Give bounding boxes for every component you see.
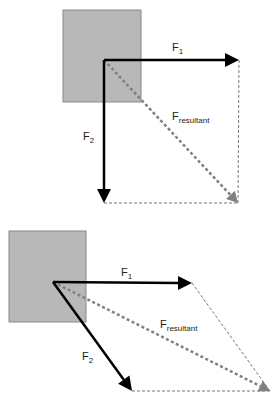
object-box bbox=[63, 10, 141, 102]
resultant-label: Fresultant bbox=[172, 110, 210, 125]
f2-force-arrow bbox=[53, 282, 124, 380]
angled-forces-diagram: F1F2Fresultant bbox=[9, 231, 270, 391]
f2-arrowhead-icon bbox=[118, 376, 132, 391]
f1-arrowhead-icon bbox=[225, 53, 239, 67]
f1-label: F1 bbox=[121, 266, 133, 281]
f1-force-arrow bbox=[53, 282, 178, 283]
resultant-label: Fresultant bbox=[160, 318, 198, 333]
parallelogram-side-line bbox=[238, 60, 239, 203]
force-diagram-canvas: F1F2FresultantF1F2Fresultant bbox=[0, 0, 280, 401]
resultant-force-arrow bbox=[104, 60, 230, 195]
perpendicular-forces-diagram: F1F2Fresultant bbox=[63, 10, 239, 203]
f1-arrowhead-icon bbox=[178, 276, 192, 290]
f2-arrowhead-icon bbox=[97, 189, 111, 203]
parallelogram-side-line bbox=[192, 283, 270, 391]
object-box bbox=[9, 231, 86, 322]
f1-label: F1 bbox=[172, 41, 184, 56]
f2-label: F2 bbox=[82, 350, 94, 365]
f2-label: F2 bbox=[83, 130, 95, 145]
resultant-force-arrow bbox=[53, 282, 260, 386]
